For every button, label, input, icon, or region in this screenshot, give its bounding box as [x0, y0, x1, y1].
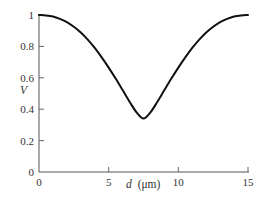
y-tick-label: 0.2: [20, 135, 34, 147]
x-tick-label: 5: [106, 176, 112, 188]
x-tick-label: 0: [36, 176, 42, 188]
y-axis-label: V: [20, 84, 29, 96]
visibility-chart: 00.20.40.60.81 051015 V d (μm): [0, 0, 261, 206]
x-axis-label-unit: (μm): [138, 178, 161, 191]
x-axis-label: d (μm): [126, 178, 161, 191]
y-tick-label: 0.8: [20, 40, 34, 52]
data-curve: [39, 15, 248, 119]
axes: [39, 14, 249, 172]
x-tick-label: 10: [173, 176, 185, 188]
y-tick-label: 0: [29, 166, 35, 178]
y-tick-label: 1: [29, 9, 35, 21]
x-tick-label: 15: [243, 176, 255, 188]
y-tick-label: 0.6: [20, 72, 34, 84]
y-tick-label: 0.4: [20, 103, 34, 115]
x-axis-label-var: d: [126, 178, 132, 190]
